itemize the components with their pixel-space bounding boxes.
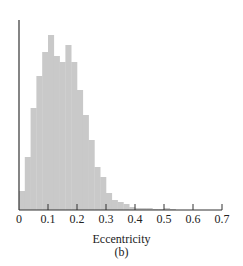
x-tick-label: 0 bbox=[16, 212, 22, 227]
histogram-bar bbox=[94, 167, 100, 210]
histogram-bars bbox=[19, 35, 176, 210]
x-tick-label: 0.1 bbox=[41, 212, 56, 227]
x-tick-label: 0.2 bbox=[70, 212, 85, 227]
histogram-bar bbox=[60, 62, 66, 210]
histogram-bar bbox=[112, 200, 118, 210]
panel-label: (b) bbox=[0, 245, 243, 260]
histogram-bar bbox=[48, 35, 54, 210]
x-tick-label: 0.6 bbox=[186, 212, 201, 227]
histogram-bar bbox=[71, 62, 77, 210]
x-tick-label: 0.7 bbox=[215, 212, 230, 227]
histogram-bar bbox=[31, 108, 37, 210]
x-tick-label: 0.4 bbox=[128, 212, 143, 227]
histogram-bar bbox=[77, 90, 83, 210]
x-tick-label: 0.5 bbox=[157, 212, 172, 227]
x-tick-label: 0.3 bbox=[99, 212, 114, 227]
histogram-bar bbox=[100, 177, 106, 210]
histogram-plot bbox=[0, 0, 243, 266]
histogram-bar bbox=[83, 115, 89, 210]
histogram-bar bbox=[36, 76, 42, 210]
histogram-bar bbox=[123, 204, 129, 210]
histogram-bar bbox=[118, 202, 124, 210]
histogram-bar bbox=[89, 140, 95, 210]
histogram-bar bbox=[65, 45, 71, 210]
histogram-bar bbox=[25, 157, 31, 210]
histogram-bar bbox=[19, 191, 25, 210]
histogram-bar bbox=[106, 193, 112, 210]
histogram-bar bbox=[54, 56, 60, 210]
histogram-bar bbox=[42, 52, 48, 210]
